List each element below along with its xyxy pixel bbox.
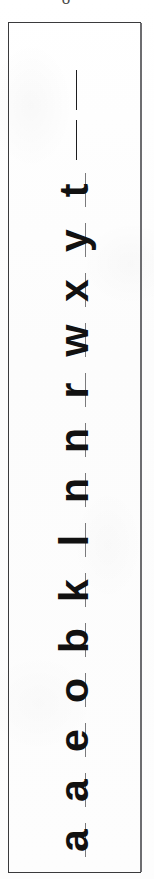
letter-cell: y bbox=[8, 215, 141, 265]
letter-glyph: a bbox=[54, 829, 95, 852]
letter-cell: o bbox=[8, 665, 141, 715]
guide-rule bbox=[76, 70, 77, 110]
letter-cell: x bbox=[8, 265, 141, 315]
letter-cell: | bbox=[8, 115, 141, 165]
letter-cell: k bbox=[8, 565, 141, 615]
letter-glyph: o bbox=[54, 677, 95, 702]
letter-cell: t bbox=[8, 165, 141, 215]
scanned-page: o aaeobklnnrwxyt|| bbox=[0, 0, 154, 879]
letter-glyph: t bbox=[54, 183, 95, 197]
letter-cell: n bbox=[8, 415, 141, 465]
letter-cell: l bbox=[8, 515, 141, 565]
letter-cell: n bbox=[8, 465, 141, 515]
letter-cell: r bbox=[8, 365, 141, 415]
letter-glyph: r bbox=[54, 382, 95, 398]
letter-glyph: n bbox=[54, 477, 95, 502]
letter-glyph: x bbox=[54, 279, 95, 302]
letter-glyph: n bbox=[54, 427, 95, 452]
letter-cell: a bbox=[8, 815, 141, 865]
letter-glyph: b bbox=[54, 627, 95, 652]
rotated-letter-column: aaeobklnnrwxyt|| bbox=[8, 22, 141, 873]
letter-cell: a bbox=[8, 765, 141, 815]
letter-glyph: w bbox=[54, 324, 95, 356]
letter-cell: w bbox=[8, 315, 141, 365]
cropped-glyph-fragment: o bbox=[59, 0, 73, 7]
letter-glyph: e bbox=[54, 729, 95, 752]
letter-cell: b bbox=[8, 615, 141, 665]
letter-cell: e bbox=[8, 715, 141, 765]
letter-glyph: l bbox=[54, 534, 95, 545]
letter-glyph: a bbox=[54, 779, 95, 802]
letter-cell: | bbox=[8, 65, 141, 115]
letter-glyph: k bbox=[54, 579, 95, 602]
guide-rule bbox=[76, 120, 77, 160]
letter-glyph: y bbox=[54, 229, 95, 252]
